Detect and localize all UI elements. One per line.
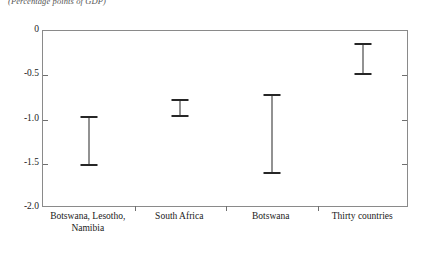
x-axis-category-labels: Botswana, Lesotho,NamibiaSouth AfricaBot… xyxy=(42,211,408,253)
plot-area xyxy=(42,30,408,207)
category-label-line: Botswana xyxy=(225,211,317,223)
x-axis-category-label: Botswana xyxy=(225,211,317,223)
x-axis-category-label: South Africa xyxy=(134,211,226,223)
error-bar-line xyxy=(271,95,272,173)
y-axis-tick-label: -0.5 xyxy=(3,70,39,80)
y-axis-tick-mark xyxy=(43,164,48,165)
y-axis-tick-mark xyxy=(402,120,407,121)
y-axis-tick-label: 0 xyxy=(3,25,39,35)
y-axis-tick-label: -2.0 xyxy=(3,202,39,212)
category-label-line: South Africa xyxy=(134,211,226,223)
error-bar-line xyxy=(88,117,89,165)
y-axis-tick-labels: 0-0.5-1.0-1.5-2.0 xyxy=(0,30,39,207)
error-bar-cap xyxy=(263,94,280,96)
y-axis-tick-label: -1.0 xyxy=(3,114,39,124)
category-label-line: Namibia xyxy=(42,223,134,235)
chart-figure: (Percentage points of GDP) 0-0.5-1.0-1.5… xyxy=(0,0,425,253)
error-bar-cap xyxy=(355,73,372,75)
category-label-line: Botswana, Lesotho, xyxy=(42,211,134,223)
error-bar-line xyxy=(363,44,364,74)
y-axis-tick-label: -1.5 xyxy=(3,158,39,168)
error-bar-cap xyxy=(172,115,189,117)
error-bar-cap xyxy=(80,164,97,166)
chart-units-note: (Percentage points of GDP) xyxy=(8,0,106,6)
error-bar-cap xyxy=(80,116,97,118)
category-label-line: Thirty countries xyxy=(317,211,409,223)
y-axis-tick-mark xyxy=(402,164,407,165)
error-bar-line xyxy=(180,100,181,116)
error-bar-cap xyxy=(355,43,372,45)
error-bar-cap xyxy=(263,172,280,174)
y-axis-tick-mark xyxy=(43,75,48,76)
y-axis-tick-mark xyxy=(43,120,48,121)
x-axis-category-label: Botswana, Lesotho,Namibia xyxy=(42,211,134,234)
error-bar-cap xyxy=(172,99,189,101)
x-axis-category-label: Thirty countries xyxy=(317,211,409,223)
y-axis-tick-mark xyxy=(402,75,407,76)
